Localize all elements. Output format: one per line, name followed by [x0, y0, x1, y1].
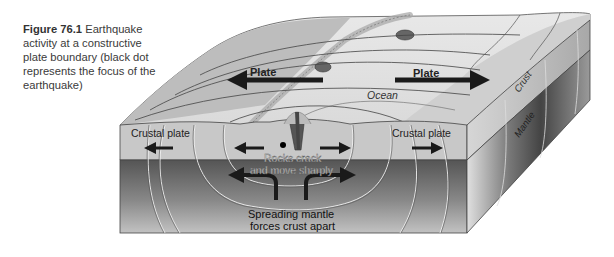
- crustal-plate-label-left: Crustal plate: [131, 127, 190, 139]
- plate-label-left: Plate: [250, 66, 276, 78]
- spreading-label-line1: Spreading mantle: [248, 208, 334, 220]
- earthquake-focus-dot: [280, 142, 286, 148]
- spreading-label-line2: forces crust apart: [250, 220, 335, 232]
- crustal-plate-label-right: Crustal plate: [392, 127, 451, 139]
- rocks-crack-label-line2: and move sharply: [250, 164, 334, 176]
- ocean-label: Ocean: [367, 89, 398, 101]
- rocks-crack-label-line1: Rocks crack: [264, 152, 322, 164]
- plate-label-right: Plate: [413, 67, 439, 79]
- plate-boundary-diagram: Plate Plate Ocean Crustal plate Crustal …: [0, 0, 614, 257]
